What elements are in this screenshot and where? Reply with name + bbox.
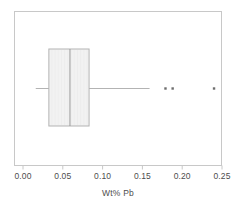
outlier-markers [164, 87, 215, 89]
x-tick-label-0: 0.00 [3, 171, 43, 181]
boxplot-figure: 0.000.050.100.150.200.25 Wt% Pb [0, 0, 236, 206]
x-tick-label-1: 0.05 [43, 171, 83, 181]
outlier-point-2 [213, 87, 215, 89]
x-tick-label-2: 0.10 [83, 171, 123, 181]
outlier-point-0 [164, 87, 166, 89]
x-tick-label-5: 0.25 [202, 171, 236, 181]
x-tick-label-3: 0.15 [122, 171, 162, 181]
x-tick-label-4: 0.20 [162, 171, 202, 181]
x-axis-ticks [23, 166, 222, 170]
outlier-point-1 [171, 87, 173, 89]
x-axis-title: Wt% Pb [0, 188, 236, 198]
